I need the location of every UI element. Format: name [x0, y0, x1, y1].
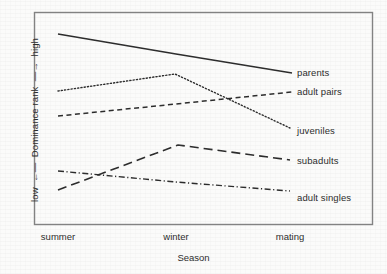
y-axis-label: low ←— Dominance rank —→ high — [29, 38, 40, 202]
y-axis-high-label: high — [29, 38, 40, 56]
series-label-subadults: subadults — [297, 155, 339, 166]
x-tick-label-mating: mating — [264, 231, 316, 242]
dominance-rank-line-chart: low ←— Dominance rank —→ high summer win… — [0, 0, 387, 274]
series-line-juveniles — [58, 74, 290, 128]
series-label-adult-pairs: adult pairs — [297, 86, 342, 97]
series-label-adult-singles: adult singles — [297, 192, 351, 203]
series-label-parents: parents — [297, 67, 329, 78]
y-axis-low-label: low — [29, 187, 40, 202]
y-axis-arrow-up-icon: —→ — [29, 59, 40, 84]
x-tick-label-winter: winter — [150, 231, 202, 242]
series-line-parents — [58, 34, 292, 73]
series-line-subadults — [58, 145, 290, 190]
y-axis-label-container: low ←— Dominance rank —→ high — [26, 20, 42, 220]
x-axis-title: Season — [0, 252, 387, 263]
x-tick-label-summer: summer — [32, 231, 84, 242]
series-label-juveniles: juveniles — [297, 125, 335, 136]
y-axis-arrow-down-icon: ←— — [29, 160, 40, 185]
y-axis-title: Dominance rank — [29, 87, 40, 158]
series-line-adult-singles — [58, 171, 290, 191]
